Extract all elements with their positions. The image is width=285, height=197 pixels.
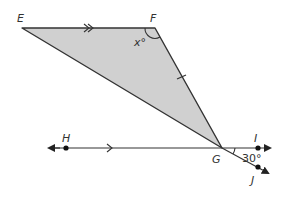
angle-arc-g — [233, 148, 235, 154]
point-j — [255, 164, 260, 169]
geometry-diagram: E F G H I J x° 30° — [0, 0, 285, 197]
angle-label-x: x° — [133, 36, 146, 49]
point-i — [255, 145, 260, 150]
label-e: E — [17, 12, 24, 25]
label-f: F — [150, 12, 157, 25]
label-g: G — [212, 153, 221, 166]
label-i: I — [254, 132, 257, 145]
label-j: J — [249, 174, 254, 187]
label-h: H — [62, 132, 70, 145]
triangle-efg — [22, 28, 222, 148]
point-h — [63, 145, 68, 150]
angle-label-30: 30° — [242, 152, 262, 165]
